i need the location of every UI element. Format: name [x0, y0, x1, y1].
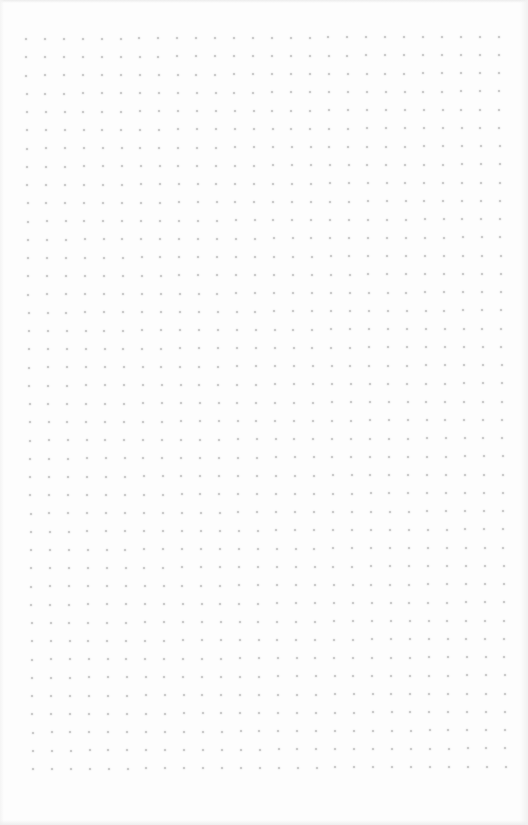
- grid-dot: [65, 275, 67, 277]
- grid-dot: [425, 346, 427, 348]
- grid-dot: [466, 656, 468, 658]
- grid-dot: [292, 237, 294, 239]
- grid-dot: [214, 55, 216, 57]
- grid-dot: [159, 183, 161, 185]
- grid-dot: [442, 200, 444, 202]
- grid-dot: [365, 36, 367, 38]
- grid-dot: [311, 256, 313, 258]
- grid-dot: [233, 73, 235, 75]
- grid-dot: [30, 513, 32, 515]
- grid-dot: [483, 455, 485, 457]
- grid-dot: [443, 291, 445, 293]
- grid-dot: [427, 547, 429, 549]
- grid-dot: [464, 437, 466, 439]
- grid-dot: [328, 146, 330, 148]
- grid-dot: [258, 694, 260, 696]
- grid-dot: [428, 675, 430, 677]
- grid-dot: [66, 421, 68, 423]
- grid-dot: [460, 36, 462, 38]
- grid-dot: [87, 585, 89, 587]
- grid-dot: [271, 37, 273, 39]
- grid-dot: [106, 640, 108, 642]
- grid-dot: [333, 620, 335, 622]
- grid-dot: [352, 620, 354, 622]
- grid-dot: [426, 419, 428, 421]
- grid-dot: [257, 603, 259, 605]
- grid-dot: [294, 456, 296, 458]
- grid-dot: [162, 494, 164, 496]
- grid-dot: [272, 164, 274, 166]
- grid-dot: [105, 530, 107, 532]
- grid-dot: [405, 237, 407, 239]
- grid-dot: [389, 547, 391, 549]
- grid-dot: [334, 675, 336, 677]
- grid-dot: [198, 384, 200, 386]
- grid-dot: [177, 74, 179, 76]
- grid-dot: [255, 347, 257, 349]
- grid-dot: [234, 165, 236, 167]
- grid-dot: [290, 128, 292, 130]
- grid-dot: [48, 494, 50, 496]
- grid-dot: [390, 675, 392, 677]
- grid-dot: [216, 238, 218, 240]
- grid-dot: [158, 92, 160, 94]
- grid-dot: [31, 695, 33, 697]
- grid-dot: [349, 365, 351, 367]
- grid-dot: [406, 310, 408, 312]
- grid-dot: [290, 73, 292, 75]
- grid-dot: [348, 219, 350, 221]
- grid-dot: [177, 110, 179, 112]
- grid-dot: [87, 622, 89, 624]
- grid-dot: [503, 601, 505, 603]
- grid-dot: [296, 730, 298, 732]
- grid-dot: [27, 294, 29, 296]
- grid-dot: [85, 366, 87, 368]
- grid-dot: [502, 455, 504, 457]
- grid-dot: [145, 694, 147, 696]
- grid-dot: [293, 347, 295, 349]
- grid-dot: [501, 401, 503, 403]
- grid-dot: [240, 730, 242, 732]
- grid-dot: [273, 310, 275, 312]
- grid-dot: [219, 566, 221, 568]
- grid-dot: [330, 292, 332, 294]
- grid-dot: [50, 713, 52, 715]
- grid-dot: [253, 146, 255, 148]
- grid-dot: [481, 255, 483, 257]
- grid-dot: [291, 146, 293, 148]
- grid-dot: [217, 384, 219, 386]
- grid-dot: [139, 92, 141, 94]
- grid-dot: [371, 620, 373, 622]
- grid-dot: [66, 403, 68, 405]
- grid-dot: [316, 767, 318, 769]
- grid-dot: [255, 402, 257, 404]
- grid-dot: [503, 620, 505, 622]
- grid-dot: [164, 713, 166, 715]
- grid-dot: [83, 165, 85, 167]
- grid-dot: [275, 511, 277, 513]
- grid-dot: [447, 656, 449, 658]
- grid-dot: [27, 257, 29, 259]
- grid-dot: [82, 38, 84, 40]
- grid-dot: [69, 731, 71, 733]
- grid-dot: [465, 638, 467, 640]
- grid-dot: [120, 74, 122, 76]
- grid-dot: [502, 492, 504, 494]
- grid-dot: [197, 238, 199, 240]
- grid-dot: [296, 748, 298, 750]
- grid-dot: [502, 474, 504, 476]
- grid-dot: [296, 694, 298, 696]
- grid-dot: [350, 420, 352, 422]
- grid-dot: [347, 109, 349, 111]
- grid-dot: [158, 147, 160, 149]
- grid-dot: [444, 419, 446, 421]
- grid-dot: [63, 74, 65, 76]
- grid-dot: [84, 238, 86, 240]
- grid-dot: [425, 383, 427, 385]
- grid-dot: [84, 275, 86, 277]
- grid-dot: [293, 402, 295, 404]
- grid-dot: [69, 640, 71, 642]
- grid-dot: [314, 602, 316, 604]
- grid-dot: [500, 328, 502, 330]
- grid-dot: [30, 604, 32, 606]
